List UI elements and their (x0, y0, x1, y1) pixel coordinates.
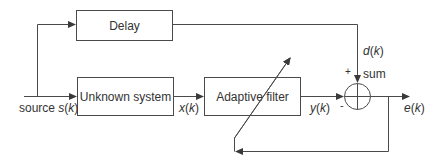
source-label: source s(k) (19, 101, 78, 115)
unknown-system-block: Unknown system (77, 77, 174, 116)
e-signal-label: e(k) (404, 101, 425, 115)
y-signal-label: y(k) (310, 101, 330, 115)
delay-label: Delay (109, 19, 140, 33)
minus-sign: - (340, 99, 344, 111)
d-signal-label: d(k) (363, 44, 384, 58)
block-diagram: Delay Unknown system Adaptive filter sou… (0, 0, 441, 167)
unknown-system-label: Unknown system (80, 90, 171, 104)
x-signal-label: x(k) (179, 101, 199, 115)
delay-output-line (172, 25, 358, 83)
sum-label: sum (363, 67, 386, 81)
plus-sign: + (345, 66, 351, 77)
adaptive-filter-label: Adaptive filter (216, 90, 289, 104)
delay-branch-line (38, 25, 76, 97)
adaptive-filter-block: Adaptive filter (204, 77, 301, 116)
delay-block: Delay (76, 10, 173, 41)
